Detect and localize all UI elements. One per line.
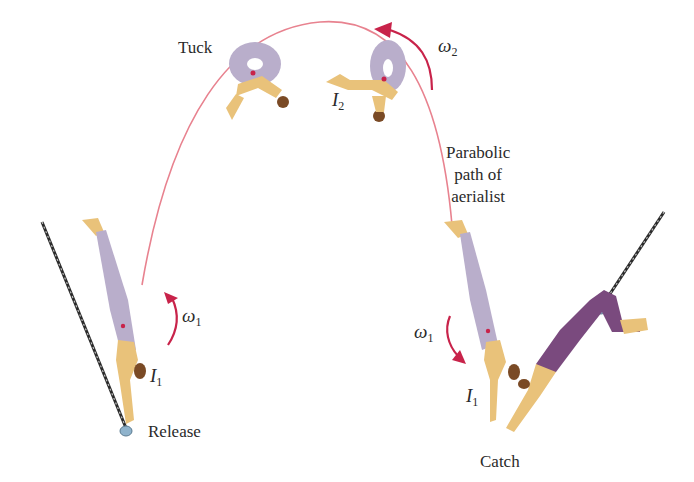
catcher-figure [506,290,648,432]
center-of-mass-dot [121,324,125,328]
flyer-catch-figure [444,220,520,422]
I2-symbol: I2 [332,90,344,116]
omega1-left-symbol: ω1 [182,306,201,332]
I2-sub: 2 [338,99,344,113]
omega2-sub: 2 [451,45,457,59]
catch-label: Catch [480,452,520,472]
I1-left-sub: 1 [156,375,162,389]
omega1-right-base: ω [414,321,427,342]
omega2-base: ω [438,35,451,56]
omega1-left-sub: 1 [195,315,201,329]
release-label: Release [148,422,201,442]
omega1-left-base: ω [182,305,195,326]
omega1-right-arrow-icon [447,316,458,356]
left-trapeze-bar-icon [120,426,132,436]
I1-right-symbol: I1 [466,386,478,412]
parabolic-path-label: Parabolic path of aerialist [446,142,510,208]
aerialist-diagram: Tuck ω2 I2 Parabolic path of aerialist ω… [0,0,694,482]
flyer-release-figure [82,218,146,424]
tuck-figure-1 [226,42,289,120]
omega1-right-sub: 1 [427,331,433,345]
omega2-symbol: ω2 [438,36,457,62]
tuck-label: Tuck [178,38,212,58]
omega1-left-arrow-icon [168,298,177,345]
I1-right-sub: 1 [472,395,478,409]
diagram-svg [0,0,694,482]
omega1-right-symbol: ω1 [414,322,433,348]
I1-left-symbol: I1 [150,366,162,392]
